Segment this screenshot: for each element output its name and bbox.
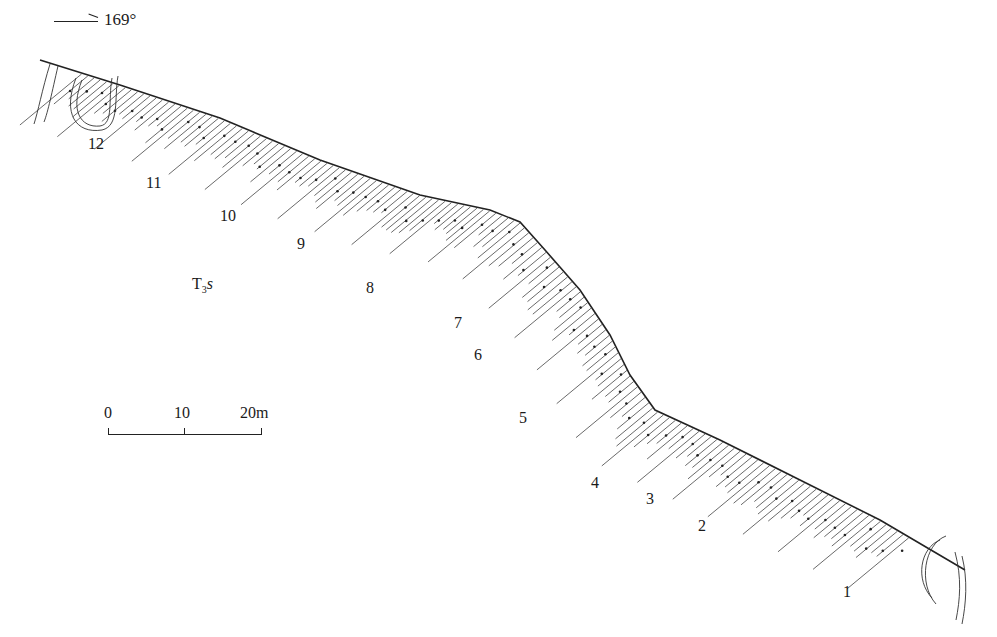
layer-label-1: 1 bbox=[843, 584, 851, 600]
lithology-dots bbox=[69, 90, 904, 552]
bedding-lines bbox=[20, 74, 909, 589]
layer-label-10: 10 bbox=[220, 208, 236, 224]
layer-label-3: 3 bbox=[646, 491, 654, 507]
layer-label-2: 2 bbox=[698, 518, 706, 534]
fold-right bbox=[922, 536, 966, 624]
formation-symbol: T bbox=[192, 275, 202, 292]
layer-label-9: 9 bbox=[297, 236, 305, 252]
scale-bar: 0 10 20m bbox=[104, 404, 264, 434]
scale-mid-tick bbox=[184, 428, 185, 434]
right-arrow-icon bbox=[54, 21, 98, 22]
layer-label-8: 8 bbox=[366, 280, 374, 296]
layer-label-6: 6 bbox=[474, 347, 482, 363]
scale-tick-0: 0 bbox=[104, 404, 112, 422]
formation-suffix: s bbox=[207, 275, 213, 292]
orientation-indicator: 169° bbox=[54, 10, 136, 30]
section-drawing bbox=[0, 0, 997, 637]
bearing-label: 169° bbox=[104, 10, 136, 29]
layer-label-11: 11 bbox=[146, 175, 161, 191]
scale-bar-line bbox=[108, 428, 262, 435]
scale-tick-20: 20m bbox=[240, 404, 268, 422]
layer-label-12: 12 bbox=[88, 136, 104, 152]
layer-label-4: 4 bbox=[591, 475, 599, 491]
geological-section: 169° T3s 0 10 20m 121110987654321 bbox=[0, 0, 997, 637]
layer-label-7: 7 bbox=[454, 315, 462, 331]
layer-label-5: 5 bbox=[519, 410, 527, 426]
scale-tick-10: 10 bbox=[174, 404, 190, 422]
formation-label: T3s bbox=[192, 276, 213, 298]
